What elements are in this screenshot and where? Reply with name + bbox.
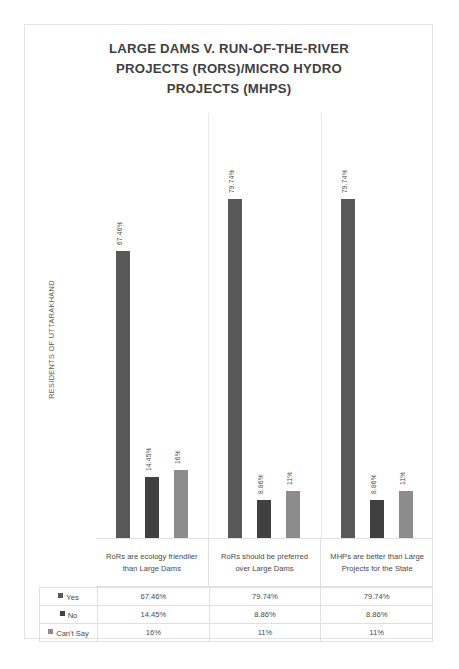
table-cell: 8.86% [209, 606, 321, 624]
legend-swatch-icon [60, 611, 65, 616]
bar-group: 79.74%8.86%11% [321, 113, 433, 538]
table-cell: 14.45% [98, 606, 210, 624]
bar-can-t-say[interactable] [174, 470, 188, 538]
data-table-body: Yes67.46%79.74%79.74%No14.45%8.86%8.86%C… [40, 588, 433, 642]
category-label: RoRs are ecology friendlier than Large D… [96, 539, 209, 586]
legend-label: No [68, 610, 78, 619]
bar-value-label: 8.86% [370, 475, 377, 495]
table-cell: 67.46% [98, 588, 210, 606]
table-cell: 11% [321, 624, 433, 642]
bar-item[interactable]: 16% [174, 113, 188, 538]
bar-value-label: 11% [399, 472, 406, 485]
bar-group: 67.46%14.45%16% [96, 113, 208, 538]
table-row: Yes67.46%79.74%79.74% [40, 588, 433, 606]
bar-can-t-say[interactable] [399, 491, 413, 538]
table-cell: 16% [98, 624, 210, 642]
bar-value-label: 11% [286, 472, 293, 485]
bar-yes[interactable] [341, 199, 355, 538]
bar-value-label: 67.46% [116, 222, 123, 246]
chart-container: LARGE DAMS V. RUN-OF-THE-RIVER PROJECTS … [24, 24, 433, 639]
chart-title-line-3: PROJECTS (MHPS) [51, 79, 407, 99]
legend-label: Yes [66, 592, 78, 601]
data-table: Yes67.46%79.74%79.74%No14.45%8.86%8.86%C… [39, 587, 433, 642]
legend-swatch-icon [58, 593, 63, 598]
legend-cell[interactable]: No [40, 606, 98, 624]
category-label: RoRs should be preferred over Large Dams [209, 539, 322, 586]
bar-no[interactable] [145, 477, 159, 538]
bar-item[interactable]: 11% [399, 113, 413, 538]
bar-group-bars: 79.74%8.86%11% [208, 113, 320, 538]
bar-yes[interactable] [228, 199, 242, 538]
bar-item[interactable]: 67.46% [116, 113, 130, 538]
chart-title-line-2: PROJECTS (RORS)/MICRO HYDRO [51, 59, 407, 79]
bar-item[interactable]: 79.74% [341, 113, 355, 538]
bar-item[interactable]: 79.74% [228, 113, 242, 538]
y-axis-title: RESIDENTS OF UTTARAKHAND [47, 250, 56, 430]
bar-value-label: 79.74% [228, 170, 235, 194]
chart-title-line-1: LARGE DAMS V. RUN-OF-THE-RIVER [51, 39, 407, 59]
table-cell: 79.74% [209, 588, 321, 606]
bar-yes[interactable] [116, 251, 130, 538]
bar-value-label: 16% [174, 450, 181, 464]
bar-value-label: 79.74% [341, 170, 348, 194]
chart-title: LARGE DAMS V. RUN-OF-THE-RIVER PROJECTS … [51, 39, 407, 99]
bar-item[interactable]: 14.45% [145, 113, 159, 538]
table-cell: 79.74% [321, 588, 433, 606]
bar-group: 79.74%8.86%11% [208, 113, 320, 538]
legend-label: Can't Say [56, 628, 89, 637]
table-cell: 8.86% [321, 606, 433, 624]
table-cell: 11% [209, 624, 321, 642]
bar-group-bars: 67.46%14.45%16% [96, 113, 208, 538]
bar-group-bars: 79.74%8.86%11% [321, 113, 433, 538]
bar-item[interactable]: 11% [286, 113, 300, 538]
bar-can-t-say[interactable] [286, 491, 300, 538]
plot-area: 67.46%14.45%16%79.74%8.86%11%79.74%8.86%… [96, 113, 433, 538]
bar-value-label: 14.45% [145, 447, 152, 471]
bar-value-label: 8.86% [257, 475, 264, 495]
table-row: No14.45%8.86%8.86% [40, 606, 433, 624]
category-axis: RoRs are ecology friendlier than Large D… [96, 538, 433, 587]
legend-swatch-icon [48, 629, 53, 634]
bar-no[interactable] [257, 500, 271, 538]
legend-cell[interactable]: Yes [40, 588, 98, 606]
bar-item[interactable]: 8.86% [257, 113, 271, 538]
legend-cell[interactable]: Can't Say [40, 624, 98, 642]
bar-item[interactable]: 8.86% [370, 113, 384, 538]
bar-no[interactable] [370, 500, 384, 538]
table-row: Can't Say16%11%11% [40, 624, 433, 642]
category-label: MHPs are better than Large Projects for … [321, 539, 433, 586]
